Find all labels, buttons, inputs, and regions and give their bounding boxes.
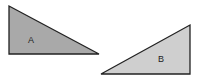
- triangles-diagram: A B: [0, 0, 202, 79]
- triangle-a-label: A: [28, 35, 34, 45]
- triangle-a: A: [9, 6, 99, 54]
- triangle-b-label: B: [158, 54, 164, 64]
- triangle-b: B: [101, 25, 190, 74]
